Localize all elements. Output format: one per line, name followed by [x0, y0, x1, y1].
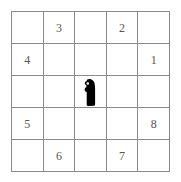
- cell-value: 5: [24, 118, 30, 130]
- grid-cell-r5c3[interactable]: [75, 140, 107, 172]
- cell-value: 8: [151, 118, 157, 130]
- cell-value: 3: [56, 22, 62, 34]
- grid-cell-r4c5[interactable]: 8: [138, 108, 170, 140]
- number-grid: 3 2 4 1: [11, 11, 170, 172]
- grid-cell-r2c3[interactable]: [75, 44, 107, 76]
- grid-cell-r3c1[interactable]: [12, 76, 44, 108]
- grid-cell-r4c4[interactable]: [107, 108, 139, 140]
- cell-value: 7: [119, 150, 125, 162]
- grid-cell-r1c4[interactable]: 2: [107, 12, 139, 44]
- grid-cell-r5c5[interactable]: [138, 140, 170, 172]
- grid-cell-r4c2[interactable]: [44, 108, 76, 140]
- grid-cell-r3c4[interactable]: [107, 76, 139, 108]
- cell-value: 6: [56, 150, 62, 162]
- puzzle-root: 3 2 4 1: [0, 0, 181, 182]
- cell-value: 1: [151, 54, 157, 66]
- grid-cell-r3c3[interactable]: [75, 76, 107, 108]
- black-blob-marker: [75, 76, 106, 107]
- black-blob-marker-icon: [83, 78, 98, 106]
- grid-cell-r5c4[interactable]: 7: [107, 140, 139, 172]
- grid-cell-r1c3[interactable]: [75, 12, 107, 44]
- grid-cell-r3c2[interactable]: [44, 76, 76, 108]
- grid-cell-r2c4[interactable]: [107, 44, 139, 76]
- cell-value: 4: [24, 54, 30, 66]
- grid-cell-r4c3[interactable]: [75, 108, 107, 140]
- cell-value: 2: [119, 22, 125, 34]
- grid-cell-r3c5[interactable]: [138, 76, 170, 108]
- grid-cell-r5c2[interactable]: 6: [44, 140, 76, 172]
- grid-cell-r2c1[interactable]: 4: [12, 44, 44, 76]
- grid-cell-r2c2[interactable]: [44, 44, 76, 76]
- grid-cell-r1c5[interactable]: [138, 12, 170, 44]
- grid-cell-r5c1[interactable]: [12, 140, 44, 172]
- grid-cell-r2c5[interactable]: 1: [138, 44, 170, 76]
- grid-cell-r4c1[interactable]: 5: [12, 108, 44, 140]
- grid-cell-r1c2[interactable]: 3: [44, 12, 76, 44]
- grid-cell-r1c1[interactable]: [12, 12, 44, 44]
